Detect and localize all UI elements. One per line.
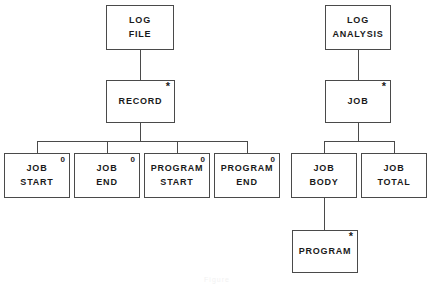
node-label-secondary: ANALYSIS bbox=[332, 28, 383, 41]
node-label-primary: JOB bbox=[97, 162, 118, 175]
connector-job-to-bar bbox=[358, 123, 359, 141]
node-label-primary: JOB bbox=[384, 162, 405, 175]
figure-caption: Figure bbox=[0, 276, 434, 284]
node-label-primary: JOB bbox=[314, 162, 335, 175]
connector-analysis-to-job bbox=[358, 50, 359, 80]
node-job-start[interactable]: JOBSTART0 bbox=[4, 153, 70, 198]
node-job-total[interactable]: JOBTOTAL bbox=[361, 153, 427, 198]
selection-marker-icon: 0 bbox=[131, 156, 135, 164]
node-label-secondary: END bbox=[96, 176, 117, 189]
connector-record-children-bar bbox=[37, 141, 248, 142]
connector-bar-to-job-total bbox=[394, 141, 395, 153]
node-label-primary: PROGRAM bbox=[299, 245, 352, 258]
node-log-analysis[interactable]: LOGANALYSIS bbox=[325, 5, 391, 50]
node-job[interactable]: JOB* bbox=[325, 80, 391, 123]
node-label-primary: JOB bbox=[348, 95, 369, 108]
connector-logfile-to-record bbox=[140, 50, 141, 80]
node-label-secondary: TOTAL bbox=[377, 176, 410, 189]
node-label-primary: PROGRAM bbox=[221, 162, 274, 175]
connector-bar-to-job-body bbox=[324, 141, 325, 153]
node-label-primary: JOB bbox=[27, 162, 48, 175]
node-label-primary: RECORD bbox=[119, 95, 163, 108]
node-label-secondary: FILE bbox=[129, 28, 152, 41]
node-label-secondary: BODY bbox=[309, 176, 338, 189]
node-label-primary: PROGRAM bbox=[151, 162, 204, 175]
connector-job-children-bar bbox=[324, 141, 394, 142]
selection-marker-icon: 0 bbox=[61, 156, 65, 164]
node-program-start[interactable]: PROGRAMSTART0 bbox=[144, 153, 210, 198]
node-program[interactable]: PROGRAM* bbox=[292, 230, 358, 273]
selection-marker-icon: 0 bbox=[201, 156, 205, 164]
connector-bar-to-job-start bbox=[37, 141, 38, 153]
selection-marker-icon: 0 bbox=[271, 156, 275, 164]
node-record[interactable]: RECORD* bbox=[106, 80, 175, 123]
node-job-body[interactable]: JOBBODY bbox=[291, 153, 357, 198]
node-job-end[interactable]: JOBEND0 bbox=[74, 153, 140, 198]
node-label-secondary: END bbox=[236, 176, 257, 189]
iteration-marker-icon: * bbox=[166, 81, 170, 92]
node-label-secondary: START bbox=[160, 176, 193, 189]
connector-bar-to-prog-end bbox=[247, 141, 248, 153]
node-program-end[interactable]: PROGRAMEND0 bbox=[214, 153, 280, 198]
connector-record-to-bar bbox=[140, 123, 141, 141]
node-label-primary: LOG bbox=[129, 14, 151, 27]
connector-bar-to-job-end bbox=[107, 141, 108, 153]
node-log-file[interactable]: LOGFILE bbox=[106, 5, 174, 50]
connector-jobbody-to-program bbox=[324, 198, 325, 230]
connector-bar-to-prog-start bbox=[177, 141, 178, 153]
structure-diagram-canvas: LOGFILERECORD*JOBSTART0JOBEND0PROGRAMSTA… bbox=[0, 0, 434, 284]
node-label-secondary: START bbox=[20, 176, 53, 189]
iteration-marker-icon: * bbox=[382, 81, 386, 92]
iteration-marker-icon: * bbox=[349, 231, 353, 242]
node-label-primary: LOG bbox=[347, 14, 369, 27]
